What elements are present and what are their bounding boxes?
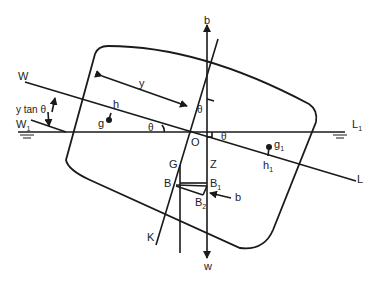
angle-arc-left [162,125,164,132]
label-y: y [139,77,145,89]
point-g1 [266,144,272,150]
label-k: K [147,231,155,243]
label-theta-left: θ [148,122,154,133]
label-b-right: b [235,191,241,203]
label-b1: B1 [210,177,221,191]
centreline-k [156,39,218,245]
label-h: h [113,98,119,110]
arrow-down-icon [48,112,49,126]
arrow-up-icon [52,98,55,112]
label-w: W [18,70,29,82]
label-w1: W1 [16,118,30,132]
label-z: Z [210,158,217,170]
water-surface-icon-left [20,135,34,138]
label-b-top: b [204,14,210,26]
label-l1: L1 [352,118,362,132]
b-b1-line [176,185,207,186]
label-g-centre: G [169,158,178,170]
label-theta-top: θ [197,104,203,115]
arrow-b-icon [210,193,231,198]
label-y-tan-theta: y tan θ [16,104,46,115]
label-w-weight: w [203,260,212,272]
label-b2: B2 [195,196,206,210]
label-h1: h1 [263,159,273,173]
label-l: L [357,173,363,185]
water-surface-icon-right [333,135,347,138]
angle-arc-top [207,99,214,101]
label-g1: g1 [274,138,284,152]
point-g [106,117,112,123]
label-theta-right: θ [221,131,227,142]
label-g: g [98,117,104,129]
ship-stability-diagram: W W1 y tan θ y h g θ θ θ O b L1 L g1 h1 … [0,0,379,282]
label-o: O [191,136,200,148]
label-b: B [164,177,171,189]
